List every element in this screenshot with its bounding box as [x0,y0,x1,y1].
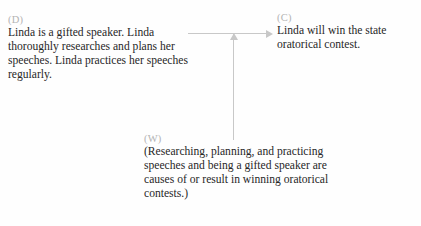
node-warrant: (W) (Researching, planning, and practici… [144,132,339,201]
arrow-right-icon [266,30,273,38]
connector-warrant-to-link-line [233,34,234,140]
arrow-up-icon [230,33,238,40]
node-claim-label: (C) [277,11,417,24]
node-data-text: Linda is a gifted speaker. Linda thoroug… [8,26,188,82]
node-data-label: (D) [8,13,188,26]
argument-diagram: (D) Linda is a gifted speaker. Linda tho… [0,0,421,226]
node-claim-text: Linda will win the state oratorical cont… [277,24,417,52]
node-warrant-label: (W) [144,132,339,145]
node-data: (D) Linda is a gifted speaker. Linda tho… [8,13,188,82]
node-warrant-text: (Researching, planning, and practicing s… [144,145,339,201]
node-claim: (C) Linda will win the state oratorical … [277,11,417,52]
